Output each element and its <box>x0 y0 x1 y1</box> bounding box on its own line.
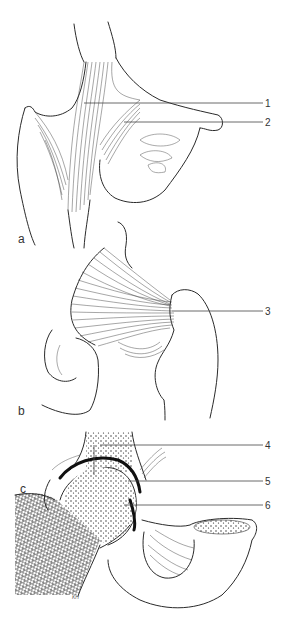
artist-signature: KH <box>72 594 79 600</box>
callout-4: 4 <box>265 440 271 451</box>
pubis-stipple <box>194 520 250 534</box>
callout-5: 5 <box>265 476 271 487</box>
bone-stipple-ilium <box>86 432 132 472</box>
panel-b-drawing <box>42 222 218 420</box>
ligament-fibres-a <box>35 62 140 212</box>
callout-3: 3 <box>265 306 271 317</box>
callout-1: 1 <box>265 98 271 109</box>
panel-a-drawing <box>17 22 222 248</box>
callout-6: 6 <box>265 500 271 511</box>
panel-label-a: a <box>18 232 25 246</box>
callout-2: 2 <box>265 117 271 128</box>
panel-label-c: c <box>20 482 26 496</box>
panel-c-drawing <box>15 432 257 608</box>
anatomical-figure: 1 2 3 4 5 6 a b c KH <box>0 0 285 630</box>
panel-label-b: b <box>18 404 25 418</box>
